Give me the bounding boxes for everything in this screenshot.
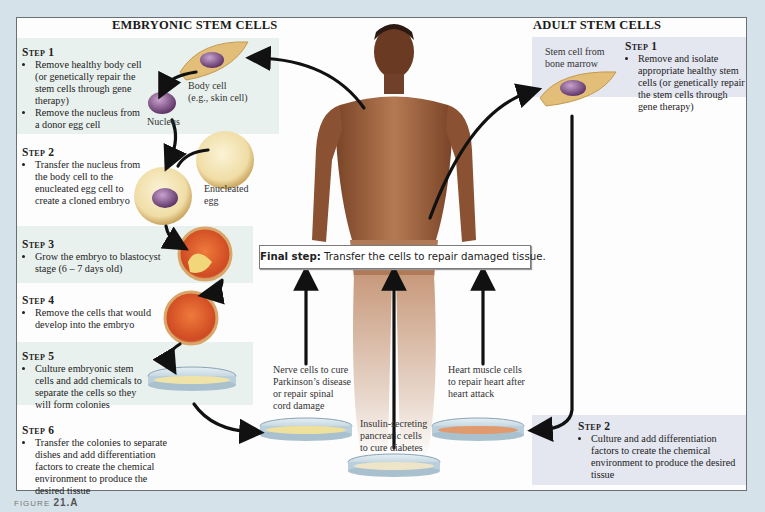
label-line: Heart muscle cells [448,364,525,376]
final-step-text: Transfer the cells to repair damaged tis… [321,251,546,262]
embryonic-step-1: Step 1 Remove healthy body cell (or gene… [22,46,147,131]
step-heading: Step 3 [22,238,172,250]
dish-heart-cells [432,418,524,441]
step-bullet: Remove the nucleus from a donor egg cell [35,107,147,131]
step-bullet: Remove healthy body cell (or genetically… [35,59,147,107]
nucleus-label: Nucleus [147,116,180,128]
enucleated-egg-label: Enucleated egg [204,183,248,207]
nucleus [148,92,176,114]
step-bullet: Transfer the colonies to separate dishes… [35,437,172,497]
step-heading: Step 6 [22,424,172,436]
enucleated-egg [196,131,254,189]
step-heading: Step 1 [22,46,147,58]
adult-title: ADULT STEM CELLS [533,18,661,33]
label-line: cord damage [273,400,351,412]
caption-prefix: FIGURE [14,499,50,508]
embryonic-step-3: Step 3 Grow the embryo to blastocyst sta… [22,238,172,275]
caption-number: 21.A [53,497,78,508]
dish-nerve-cells [260,418,352,441]
label-line: to repair heart after [448,376,525,388]
label-line: to cure diabetes [360,442,427,454]
adult-step-1: Step 1 Remove and isolate appropriate he… [625,40,745,113]
step-bullet: Remove the cells that would develop into… [35,307,152,331]
step-heading: Step 2 [578,420,738,432]
label-line: Parkinson’s disease [273,376,351,388]
label-line: (e.g., skin cell) [188,92,248,104]
label-line: pancreatic cells [360,430,427,442]
label-line: Nerve cells to cure [273,364,351,376]
label-line: Enucleated [204,183,248,195]
body-cell-label: Body cell (e.g., skin cell) [188,80,248,104]
nerve-cells-label: Nerve cells to cure Parkinson’s disease … [273,364,351,412]
label-line: or repair spinal [273,388,351,400]
hollow-blastocyst [165,292,217,344]
adult-step-2: Step 2 Culture and add differentiation f… [578,420,738,481]
figure-caption: FIGURE 21.A [14,497,79,508]
step-bullet: Remove and isolate appropriate healthy s… [638,53,745,113]
step-heading: Step 5 [22,350,150,362]
step-heading: Step 2 [22,146,142,158]
embryonic-step-2: Step 2 Transfer the nucleus from the bod… [22,146,142,207]
step-heading: Step 4 [22,294,152,306]
final-step-label: Final step: [260,251,321,262]
label-line: heart attack [448,388,525,400]
step-bullet: Transfer the nucleus from the body cell … [35,159,142,207]
final-step-box: Final step: Transfer the cells to repair… [259,245,531,269]
label-line: Body cell [188,80,248,92]
step-bullet: Culture embryonic stem cells and add che… [35,363,150,411]
label-line: egg [204,195,248,207]
embryonic-step-6: Step 6 Transfer the colonies to separate… [22,424,172,497]
dish-embryonic-colonies [148,367,236,391]
label-line: Stem cell from [545,46,604,58]
embryonic-step-5: Step 5 Culture embryonic stem cells and … [22,350,150,411]
heart-cells-label: Heart muscle cells to repair heart after… [448,364,525,400]
embryonic-title: EMBRYONIC STEM CELLS [112,18,277,33]
step-bullet: Culture and add differentiation factors … [591,433,738,481]
label-line: bone marrow [545,58,604,70]
adult-stem-cell-label: Stem cell from bone marrow [545,46,604,70]
insulin-cells-label: Insulin-secreting pancreatic cells to cu… [360,418,427,454]
step-heading: Step 1 [625,40,745,52]
embryonic-step-4: Step 4 Remove the cells that would devel… [22,294,152,331]
blastocyst [179,228,231,280]
dish-pancreatic-cells [348,454,440,477]
step-bullet: Grow the embryo to blastocyst stage (6 –… [35,251,172,275]
label-line: Insulin-secreting [360,418,427,430]
